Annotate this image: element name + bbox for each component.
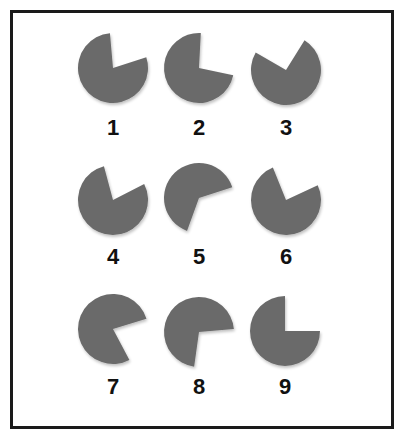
shape-label-2: 2 — [179, 117, 219, 139]
pie-shape-3 — [251, 40, 321, 105]
pie-shape-4 — [78, 166, 148, 235]
pie-shape-7 — [78, 294, 146, 364]
pie-shape-5 — [164, 163, 232, 231]
shape-label-9: 9 — [265, 376, 305, 398]
pie-shape-8 — [164, 297, 234, 367]
shape-label-5: 5 — [179, 246, 219, 268]
pie-shape-1 — [78, 33, 148, 103]
pie-shape-6 — [251, 168, 321, 235]
shape-label-7: 7 — [93, 376, 133, 398]
shape-label-3: 3 — [266, 117, 306, 139]
pie-shapes-canvas — [0, 0, 401, 438]
pie-shape-2 — [164, 33, 233, 103]
shape-label-1: 1 — [93, 117, 133, 139]
shape-label-4: 4 — [93, 246, 133, 268]
shape-label-8: 8 — [179, 376, 219, 398]
pie-shape-9 — [250, 296, 320, 366]
shape-label-6: 6 — [266, 246, 306, 268]
